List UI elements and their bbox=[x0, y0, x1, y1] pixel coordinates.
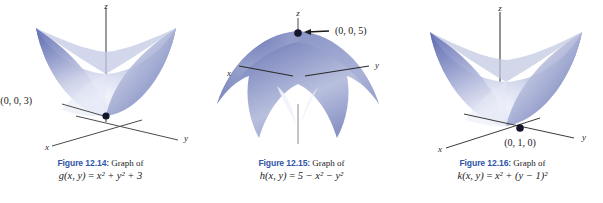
plot-paraboloid-up-shifted: z x y (0, 1, 0) bbox=[402, 0, 603, 160]
figure-panel-1214: z x y (0, 0, 3) Figure 12.14: Graph of bbox=[0, 0, 201, 203]
formula-equals: = bbox=[486, 170, 492, 181]
formula-args: (x, y) bbox=[64, 170, 86, 181]
x-axis-label: x bbox=[226, 68, 231, 78]
figure-caption-1215: Figure 12.15: Graph of h(x, y) = 5 − x² … bbox=[201, 158, 402, 183]
x-axis-label: x bbox=[437, 144, 442, 154]
paraboloid-right-lobe bbox=[506, 32, 582, 126]
formula-args: (x, y) bbox=[462, 170, 484, 181]
caption-lead-text: Graph of bbox=[111, 158, 143, 168]
point-label: (0, 0, 5) bbox=[335, 25, 367, 37]
y-axis-line bbox=[76, 116, 178, 140]
plot-paraboloid-up: z x y (0, 0, 3) bbox=[0, 0, 201, 160]
formula-body: x² + y² + 3 bbox=[97, 170, 143, 181]
figure-separator: : bbox=[508, 158, 511, 168]
formula-equals: = bbox=[289, 170, 295, 181]
vertex-point-marker bbox=[102, 112, 109, 119]
figure-caption-1216: Figure 12.16: Graph of k(x, y) = x² + (y… bbox=[402, 158, 603, 183]
figure-separator: : bbox=[307, 158, 310, 168]
formula-body: 5 − x² − y² bbox=[298, 170, 344, 181]
formula-equals: = bbox=[88, 170, 94, 181]
y-axis-label: y bbox=[581, 132, 586, 142]
caption-lead-text: Graph of bbox=[312, 158, 344, 168]
vertex-point-marker bbox=[294, 29, 302, 37]
figure-number: Figure 12.16 bbox=[459, 158, 508, 168]
formula-body: x² + (y − 1)² bbox=[495, 170, 548, 181]
y-axis-label: y bbox=[183, 133, 188, 143]
point-label: (0, 0, 3) bbox=[0, 95, 32, 107]
caption-line-lead: Figure 12.14: Graph of bbox=[0, 158, 201, 169]
caption-line-lead: Figure 12.16: Graph of bbox=[402, 158, 603, 169]
figure-number: Figure 12.14 bbox=[57, 158, 106, 168]
z-axis-label: z bbox=[497, 3, 502, 13]
figure-caption-1214: Figure 12.14: Graph of g(x, y) = x² + y²… bbox=[0, 158, 201, 183]
caption-formula: h(x, y) = 5 − x² − y² bbox=[201, 170, 402, 183]
x-axis-label: x bbox=[44, 142, 49, 152]
figure-number: Figure 12.15 bbox=[258, 158, 307, 168]
figure-panel-1216: z x y (0, 1, 0) Figure 12.16: Graph of bbox=[402, 0, 603, 203]
caption-formula: g(x, y) = x² + y² + 3 bbox=[0, 170, 201, 183]
z-axis-label: z bbox=[103, 1, 108, 11]
plot-paraboloid-down: z x y (0, 0, 5) bbox=[201, 0, 402, 160]
formula-args: (x, y) bbox=[265, 170, 287, 181]
figure-row: z x y (0, 0, 3) Figure 12.14: Graph of bbox=[0, 0, 603, 203]
z-axis-label: z bbox=[295, 8, 300, 18]
figure-separator: : bbox=[106, 158, 109, 168]
caption-lead-text: Graph of bbox=[513, 158, 545, 168]
y-axis-label: y bbox=[374, 60, 379, 70]
caption-formula: k(x, y) = x² + (y − 1)² bbox=[402, 170, 603, 183]
caption-line-lead: Figure 12.15: Graph of bbox=[201, 158, 402, 169]
paraboloid-right-lobe bbox=[106, 28, 176, 116]
point-label: (0, 1, 0) bbox=[504, 137, 536, 149]
figure-panel-1215: z x y (0, 0, 5) Figure 12.15: bbox=[201, 0, 402, 203]
vertex-point-marker bbox=[516, 124, 524, 132]
dome-valley-highlight-left bbox=[277, 86, 296, 124]
x-axis-line bbox=[52, 120, 142, 146]
